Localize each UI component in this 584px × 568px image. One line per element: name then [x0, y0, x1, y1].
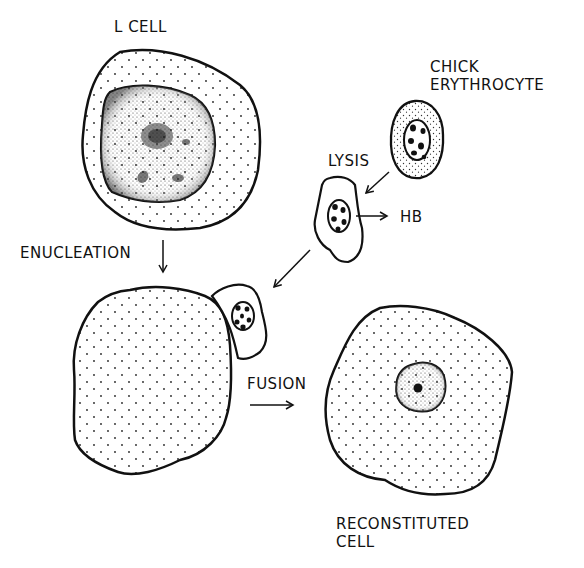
arrow-erythrocyte-to-lysis	[366, 172, 389, 193]
label-l-cell: L CELL	[114, 18, 167, 36]
l-cell	[82, 50, 260, 229]
label-reconstituted: RECONSTITUTED	[336, 515, 469, 533]
erythrocyte-nucleus	[404, 120, 430, 160]
label-chick: CHICK	[430, 58, 479, 76]
arrow-lysis-to-fusion-partner	[274, 250, 310, 287]
enucleated-l-cell	[74, 287, 231, 474]
label-lysis: LYSIS	[328, 152, 370, 170]
label-enucleation: ENUCLEATION	[20, 244, 131, 262]
cytoplast-membrane	[74, 287, 231, 474]
label-cell: CELL	[336, 533, 375, 551]
chick-erythrocyte	[391, 101, 443, 178]
label-fusion: FUSION	[247, 375, 307, 393]
nucleolus	[414, 384, 423, 393]
lysed-erythrocyte	[315, 177, 363, 262]
reconstituted-cell	[326, 306, 512, 494]
label-erythrocyte: ERYTHROCYTE	[430, 76, 544, 94]
label-hb: HB	[400, 208, 423, 226]
